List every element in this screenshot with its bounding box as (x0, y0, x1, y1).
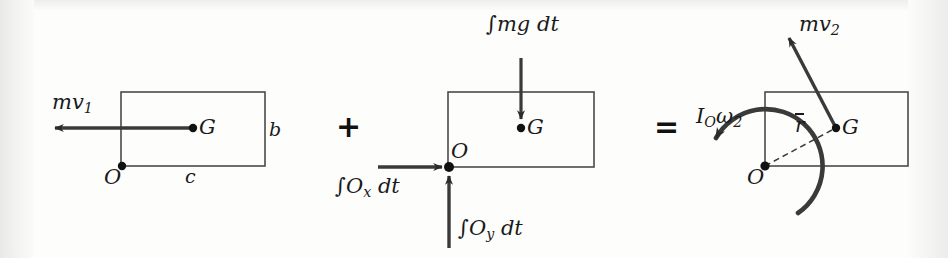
right-panel-group (716, 38, 908, 213)
mv1-label: mv1 (52, 92, 93, 115)
point-O-left-label: O (104, 167, 121, 188)
point-G-right (832, 124, 840, 132)
r-bar-overbar (795, 113, 804, 114)
figure-canvas: + = mv1 G O b c ∫mg dt G O ∫Ox dt ∫Oy dt… (0, 0, 948, 258)
Ox-impulse-label-head: ∫O (335, 174, 363, 198)
mv2-label-text: mv (799, 12, 831, 36)
dimension-c-label: c (185, 167, 196, 186)
Ox-impulse-label: ∫Ox dt (335, 176, 400, 199)
angular-momentum-label-subO: O (704, 114, 716, 130)
Oy-impulse-label-head: ∫O (458, 216, 486, 240)
point-O-middle (444, 162, 454, 172)
mv2-label: mv2 (799, 14, 840, 37)
r-bar-label: r (795, 115, 805, 135)
point-G-left (189, 124, 197, 132)
equals-operator: = (654, 112, 679, 142)
weight-impulse-label: ∫mg dt (486, 14, 559, 35)
mv1-label-sub: 1 (84, 100, 93, 116)
angular-momentum-label-omega: ω (716, 104, 733, 128)
Oy-impulse-label: ∫Oy dt (458, 218, 523, 241)
angular-momentum-label: IOω2 (696, 106, 742, 129)
plus-operator: + (336, 112, 361, 142)
Oy-impulse-label-tail: dt (494, 216, 523, 240)
mv2-label-sub: 2 (831, 22, 840, 38)
point-G-middle (517, 124, 525, 132)
point-G-right-label: G (842, 117, 859, 138)
r-bar-label-text: r (795, 113, 805, 137)
Ox-impulse-label-sub: x (363, 184, 371, 200)
point-G-left-label: G (199, 117, 216, 138)
Ox-impulse-label-tail: dt (371, 174, 400, 198)
point-O-middle-label: O (451, 141, 468, 162)
mv1-label-text: mv (52, 90, 84, 114)
point-O-right-label: O (747, 167, 764, 188)
point-G-middle-label: G (527, 117, 544, 138)
angular-momentum-label-sub2: 2 (733, 114, 742, 130)
dimension-b-label: b (269, 120, 281, 139)
